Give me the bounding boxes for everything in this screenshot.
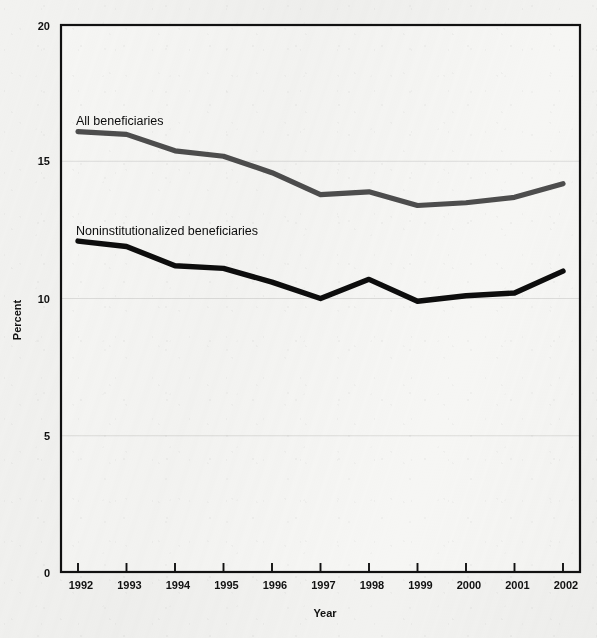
x-axis-tick-labels: 1992 1993 1994 1995 1996 1997 1998 1999 … [69, 579, 578, 591]
x-axis-title: Year [313, 607, 337, 619]
x-tick-label-1999: 1999 [408, 579, 432, 591]
x-tick-label-1997: 1997 [311, 579, 335, 591]
y-tick-label-0: 0 [44, 567, 50, 579]
series-label-all-beneficiaries: All beneficiaries [76, 114, 164, 128]
line-chart: 20 15 10 5 0 1992 1993 1994 1995 1996 19… [0, 0, 597, 638]
x-tick-label-1994: 1994 [166, 579, 191, 591]
x-tick-label-2001: 2001 [505, 579, 529, 591]
y-tick-label-5: 5 [44, 430, 50, 442]
x-tick-label-1995: 1995 [214, 579, 238, 591]
y-tick-label-10: 10 [38, 293, 50, 305]
x-tick-label-1998: 1998 [360, 579, 384, 591]
y-axis-tick-labels: 20 15 10 5 0 [38, 20, 50, 579]
x-tick-label-2002: 2002 [554, 579, 578, 591]
x-tick-label-1993: 1993 [117, 579, 141, 591]
x-tick-label-1992: 1992 [69, 579, 93, 591]
x-tick-label-2000: 2000 [457, 579, 481, 591]
y-tick-label-20: 20 [38, 20, 50, 32]
chart-page: 20 15 10 5 0 1992 1993 1994 1995 1996 19… [0, 0, 597, 638]
y-tick-label-15: 15 [38, 155, 50, 167]
series-label-noninstitutionalized-beneficiaries: Noninstitutionalized beneficiaries [76, 224, 258, 238]
y-axis-title: Percent [11, 299, 23, 340]
x-tick-label-1996: 1996 [263, 579, 287, 591]
